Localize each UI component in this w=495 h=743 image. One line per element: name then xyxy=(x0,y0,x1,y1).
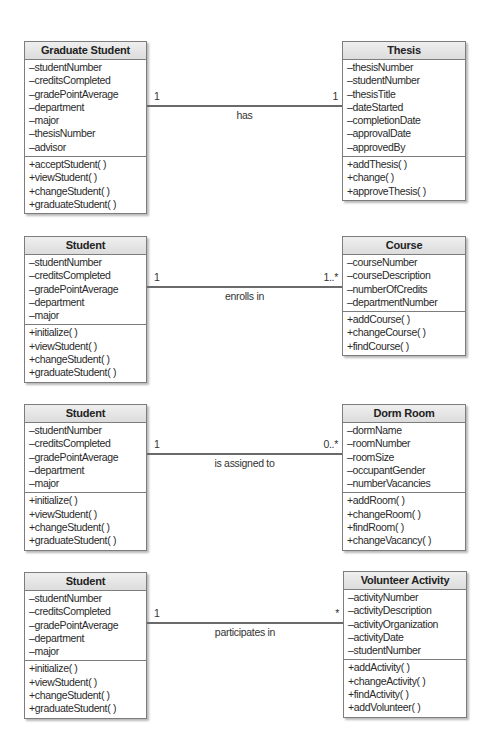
methods-section: +initialize( )+viewStudent( )+changeStud… xyxy=(25,324,146,381)
attribute: –activityDate xyxy=(348,631,463,644)
method: +viewStudent( ) xyxy=(29,171,143,184)
class-box-student: Student–studentNumber–creditsCompleted–g… xyxy=(24,572,147,719)
attribute: –advisor xyxy=(29,141,143,154)
attributes-section: –studentNumber–creditsCompleted–gradePoi… xyxy=(25,60,146,156)
attributes-section: –dormName–roomNumber–roomSize–occupantGe… xyxy=(343,423,465,492)
method: +initialize( ) xyxy=(29,494,143,507)
attribute: –creditsCompleted xyxy=(29,437,143,450)
methods-section: +addActivity( )+changeActivity( )+findAc… xyxy=(344,659,466,716)
attribute: –dateStarted xyxy=(347,101,462,114)
attribute: –department xyxy=(29,464,143,477)
method: +acceptStudent( ) xyxy=(29,158,143,171)
association-line xyxy=(147,286,342,288)
attributes-section: –studentNumber–creditsCompleted–gradePoi… xyxy=(25,255,146,324)
attribute: –departmentNumber xyxy=(347,296,462,309)
method: +findRoom( ) xyxy=(347,521,462,534)
attribute: –studentNumber xyxy=(347,74,462,87)
right-multiplicity: 1 xyxy=(332,90,338,102)
class-box-student: Student–studentNumber–creditsCompleted–g… xyxy=(24,236,147,383)
attribute: –dormName xyxy=(347,424,462,437)
method: +changeStudent( ) xyxy=(29,353,143,366)
attributes-section: –activityNumber–activityDescription–acti… xyxy=(344,590,466,659)
class-name: Student xyxy=(25,573,146,591)
attribute: –major xyxy=(29,114,143,127)
class-box-course: Course–courseNumber–courseDescription–nu… xyxy=(342,236,466,356)
method: +changeStudent( ) xyxy=(29,689,143,702)
method: +initialize( ) xyxy=(29,662,143,675)
attribute: –thesisTitle xyxy=(347,88,462,101)
class-box-graduate-student: Graduate Student–studentNumber–creditsCo… xyxy=(24,41,147,214)
left-multiplicity: 1 xyxy=(154,607,160,619)
method: +addCourse( ) xyxy=(347,313,462,326)
left-multiplicity: 1 xyxy=(154,90,160,102)
class-name: Student xyxy=(25,237,146,255)
attribute: –numberOfCredits xyxy=(347,283,462,296)
method: +graduateStudent( ) xyxy=(29,366,143,379)
method: +changeVacancy( ) xyxy=(347,534,462,547)
attribute: –activityOrganization xyxy=(348,618,463,631)
method: +addRoom( ) xyxy=(347,494,462,507)
association-label: is assigned to xyxy=(214,457,274,469)
attribute: –major xyxy=(29,477,143,490)
attribute: –creditsCompleted xyxy=(29,605,143,618)
method: +addThesis( ) xyxy=(347,158,462,171)
attribute: –occupantGender xyxy=(347,464,462,477)
method: +initialize( ) xyxy=(29,326,143,339)
attributes-section: –studentNumber–creditsCompleted–gradePoi… xyxy=(25,423,146,492)
method: +changeRoom( ) xyxy=(347,508,462,521)
class-name: Thesis xyxy=(343,42,465,60)
class-name: Course xyxy=(343,237,465,255)
attributes-section: –courseNumber–courseDescription–numberOf… xyxy=(343,255,465,311)
attribute: –gradePointAverage xyxy=(29,619,143,632)
class-name: Graduate Student xyxy=(25,42,146,60)
class-box-dorm-room: Dorm Room–dormName–roomNumber–roomSize–o… xyxy=(342,404,466,551)
method: +change( ) xyxy=(347,171,462,184)
attribute: –roomNumber xyxy=(347,437,462,450)
method: +changeActivity( ) xyxy=(348,675,463,688)
left-multiplicity: 1 xyxy=(154,271,160,283)
attribute: –studentNumber xyxy=(29,424,143,437)
attribute: –studentNumber xyxy=(29,256,143,269)
class-box-volunteer-activity: Volunteer Activity–activityNumber–activi… xyxy=(343,571,467,718)
association-line xyxy=(147,622,343,624)
attribute: –courseDescription xyxy=(347,269,462,282)
class-name: Student xyxy=(25,405,146,423)
methods-section: +initialize( )+viewStudent( )+changeStud… xyxy=(25,660,146,717)
method: +findCourse( ) xyxy=(347,340,462,353)
method: +approveThesis( ) xyxy=(347,185,462,198)
attribute: –creditsCompleted xyxy=(29,74,143,87)
attribute: –department xyxy=(29,101,143,114)
association-label: enrolls in xyxy=(225,290,264,302)
attribute: –department xyxy=(29,632,143,645)
method: +graduateStudent( ) xyxy=(29,198,143,211)
methods-section: +addThesis( )+change( )+approveThesis( ) xyxy=(343,156,465,200)
attribute: –major xyxy=(29,309,143,322)
class-box-thesis: Thesis–thesisNumber–studentNumber–thesis… xyxy=(342,41,466,201)
attribute: –major xyxy=(29,645,143,658)
attribute: –thesisNumber xyxy=(29,127,143,140)
method: +viewStudent( ) xyxy=(29,340,143,353)
left-multiplicity: 1 xyxy=(154,438,160,450)
method: +findActivity( ) xyxy=(348,688,463,701)
attribute: –gradePointAverage xyxy=(29,451,143,464)
method: +graduateStudent( ) xyxy=(29,702,143,715)
attributes-section: –thesisNumber–studentNumber–thesisTitle–… xyxy=(343,60,465,156)
attribute: –roomSize xyxy=(347,451,462,464)
method: +changeCourse( ) xyxy=(347,326,462,339)
method: +viewStudent( ) xyxy=(29,508,143,521)
attribute: –activityNumber xyxy=(348,591,463,604)
attribute: –numberVacancies xyxy=(347,477,462,490)
methods-section: +acceptStudent( )+viewStudent( )+changeS… xyxy=(25,156,146,213)
methods-section: +addCourse( )+changeCourse( )+findCourse… xyxy=(343,311,465,355)
attribute: –activityDescription xyxy=(348,604,463,617)
attribute: –studentNumber xyxy=(29,592,143,605)
method: +addActivity( ) xyxy=(348,661,463,674)
right-multiplicity: 0..* xyxy=(323,438,338,450)
class-name: Dorm Room xyxy=(343,405,465,423)
class-box-student: Student–studentNumber–creditsCompleted–g… xyxy=(24,404,147,551)
attribute: –department xyxy=(29,296,143,309)
method: +changeStudent( ) xyxy=(29,521,143,534)
method: +viewStudent( ) xyxy=(29,676,143,689)
right-multiplicity: 1..* xyxy=(323,271,338,283)
attribute: –thesisNumber xyxy=(347,61,462,74)
